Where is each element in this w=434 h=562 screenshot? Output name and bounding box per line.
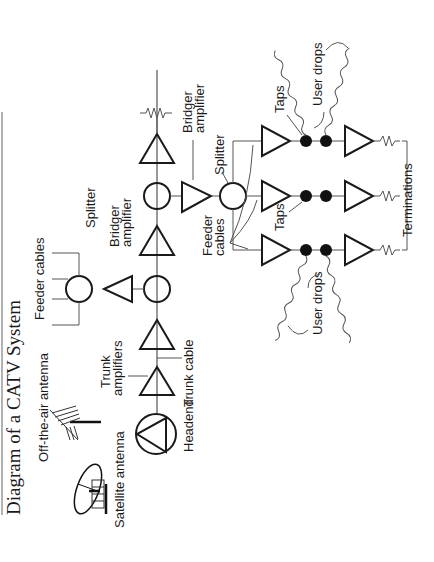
user-drops-top-arrow-1	[314, 112, 324, 128]
terminations-label: Terminations	[400, 163, 415, 237]
diagram-title: Diagram of a CATV System	[3, 300, 24, 515]
bridger-amp-1-label-b: amplifier	[119, 197, 134, 247]
feeder-cable-left-1	[52, 253, 79, 276]
feeder-cables-top-label: Feeder cables	[32, 237, 47, 320]
satellite-antenna-icon	[69, 461, 107, 517]
taps-top-label: Taps	[272, 85, 287, 113]
user-drop-wire-bottom-1	[273, 255, 308, 341]
bridger-amplifier-left	[104, 276, 132, 302]
tap-1b	[320, 135, 332, 147]
feeder-cables-label-b: cables	[212, 218, 227, 256]
taps-mid-label: Taps	[272, 203, 287, 231]
headend-symbol	[136, 414, 176, 454]
satellite-antenna-label: Satellite antenna	[112, 430, 127, 528]
tap-3a	[300, 244, 312, 256]
off-air-antenna-icon	[50, 406, 101, 440]
trunk-termination-resistor	[140, 108, 172, 118]
user-drops-bottom-label: User drops	[310, 271, 325, 335]
feeder-branch-1	[262, 126, 400, 156]
off-air-antenna-label: Off-the-air antenna	[36, 352, 51, 462]
feeder-cable-left-4	[52, 302, 79, 325]
tap-3b	[320, 244, 332, 256]
user-drops-top-label: User drops	[310, 42, 325, 106]
tap-2b	[320, 190, 332, 202]
splitter-1-label: Splitter	[83, 187, 98, 228]
feeder-line-bottom	[233, 209, 262, 250]
user-drops-top-arrow-2	[326, 42, 348, 50]
feeder-splitter-left	[66, 276, 92, 302]
trunk-cable-label: Trunk cable	[181, 340, 196, 407]
bridger-amplifier-2	[182, 182, 211, 212]
feeder-splitter-right	[220, 183, 246, 209]
user-drop-wire-top-2	[324, 47, 352, 135]
tap-1a	[300, 135, 312, 147]
trunk-amplifiers-label-2: amplifiers	[110, 340, 125, 396]
user-drops-bottom-arrow-2	[288, 326, 308, 334]
catv-diagram: Diagram of a CATV System Off-the-air ant…	[0, 0, 434, 562]
bridger-amp-2-label-b: amplifier	[192, 83, 207, 133]
tap-2a	[300, 190, 312, 202]
feeder-line-top	[233, 141, 262, 183]
splitter-2-label: Splitter	[212, 134, 227, 175]
user-drop-wire-bottom-2	[324, 255, 352, 343]
feeder-branch-3	[262, 235, 400, 265]
